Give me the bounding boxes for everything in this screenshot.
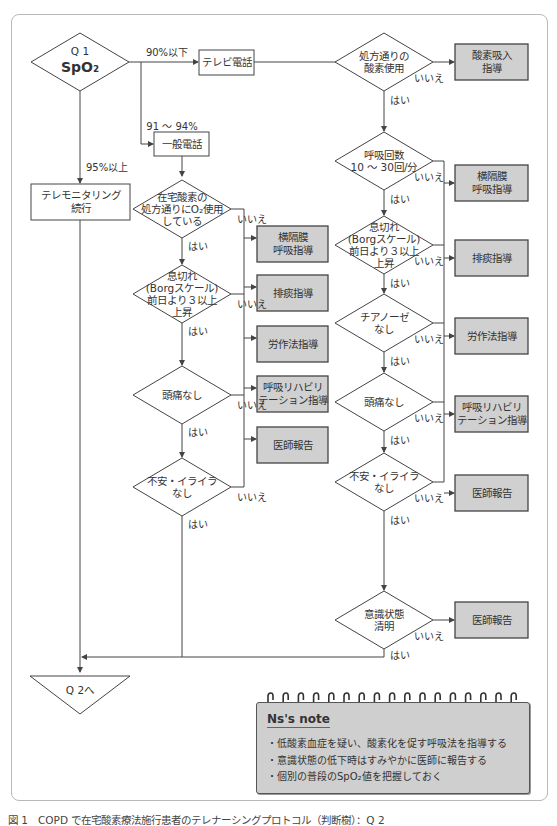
note-item: ・個別の普段のSpO₂値を把握しておく (267, 769, 507, 786)
right-decision-consciousness-text: 意識状態 (364, 608, 404, 620)
left-action-rehab-text: 呼吸リハビリ (263, 381, 323, 393)
no-label: いいえ (414, 256, 444, 267)
yes-label: はい (188, 241, 208, 252)
right-action-doctor2-text: 医師報告 (472, 614, 512, 626)
tv-call-box-text: テレビ電話 (202, 56, 253, 68)
spo2-label: SpO₂ (61, 59, 99, 75)
right-decision-resp-rate-text: 呼吸回数 (364, 149, 405, 161)
no-label: いいえ (414, 493, 444, 504)
left-action-exertion-text: 労作法指導 (268, 338, 319, 350)
yes-label: はい (390, 515, 410, 526)
general-call-box-text: 一般電話 (162, 138, 203, 150)
right-action-sputum-text: 排痰指導 (472, 252, 513, 264)
note-title: Ns's note (267, 712, 330, 728)
right-decision-cyanosis-text: なし (374, 323, 394, 335)
telemonitoring-box-text: 続行 (71, 202, 92, 214)
left-action-rehab-text: テーション指導 (258, 394, 329, 406)
no-label: いいえ (414, 172, 444, 183)
left-action-diaphragm-text: 呼吸指導 (273, 244, 314, 256)
no-label: いいえ (414, 334, 444, 345)
branch-low-label: 90%以下 (146, 47, 188, 58)
yes-label: はい (188, 519, 208, 530)
left-decision-anxiety-text: なし (172, 487, 192, 499)
right-action-rehab-text: 呼吸リハビリ (462, 401, 522, 413)
no-label: いいえ (237, 299, 267, 310)
yes-label: はい (390, 278, 410, 289)
yes-label: はい (390, 650, 410, 661)
note-list: ・低酸素血症を疑い、酸素化を促す呼吸法を指導する ・意識状態の低下時はすみやかに… (267, 736, 507, 786)
end-q2-label: Q 2へ (66, 684, 94, 696)
yes-label: はい (188, 427, 208, 438)
right-decision-resp-rate-text: 10 ～ 30回/分 (351, 161, 419, 173)
right-action-diaphragm-text: 呼吸指導 (472, 183, 513, 195)
yes-label: はい (390, 356, 410, 367)
left-decision-dyspnea-text: 前日より３以上 (147, 294, 217, 306)
right-action-exertion-text: 労作法指導 (467, 330, 518, 342)
right-action-diaphragm-text: 横隔膜 (477, 170, 508, 182)
right-action-oxygen-inhalation-text: 指導 (482, 62, 503, 74)
figure-caption: 図 1 COPD で在宅酸素療法施行患者のテレナーシングプロトコル（判断樹）：Q… (8, 812, 385, 826)
left-decision-home-oxygen-text: 在宅酸素の (157, 191, 207, 203)
right-decision-dyspnea-text: 息切れ (369, 221, 400, 233)
right-action-oxygen-inhalation-text: 酸素吸入 (472, 49, 513, 61)
left-decision-dyspnea-text: 上昇 (172, 306, 193, 318)
right-decision-cyanosis-text: チアノーゼ (360, 311, 410, 323)
right-decision-dyspnea-text: 前日より３以上 (349, 245, 419, 257)
left-decision-dyspnea-text: (Borgスケール) (146, 282, 219, 294)
right-action-doctor-text: 医師報告 (472, 487, 512, 499)
right-decision-anxiety-text: 不安・イライラ (349, 470, 419, 482)
right-decision-consciousness-text: 清明 (374, 620, 394, 632)
no-label: いいえ (414, 413, 444, 424)
branch-mid-label: 91 ～ 94% (146, 121, 197, 132)
telemonitoring-box-text: テレモニタリング (41, 189, 122, 201)
no-label: いいえ (237, 214, 267, 225)
left-action-diaphragm-text: 横隔膜 (278, 231, 309, 243)
left-action-sputum-text: 排痰指導 (273, 287, 314, 299)
q1-label: Q 1 (71, 45, 89, 57)
yes-label: はい (390, 95, 410, 106)
right-decision-headache-text: 頭痛なし (364, 396, 404, 408)
yes-label: はい (390, 194, 410, 205)
yes-label: はい (390, 435, 410, 446)
right-decision-oxygen-use-text: 処方通りの (359, 50, 409, 62)
left-action-doctor-text: 医師報告 (273, 439, 313, 451)
ns-note-box: Ns's note ・低酸素血症を疑い、酸素化を促す呼吸法を指導する ・意識状態… (256, 702, 530, 794)
branch-high-label: 95%以上 (86, 162, 128, 173)
left-decision-home-oxygen-text: している (162, 215, 202, 227)
yes-label: はい (188, 326, 208, 337)
note-item: ・意識状態の低下時はすみやかに医師に報告する (267, 753, 507, 770)
left-decision-dyspnea-text: 息切れ (167, 270, 198, 282)
right-decision-anxiety-text: なし (374, 482, 394, 494)
left-decision-anxiety-text: 不安・イライラ (147, 475, 217, 487)
left-decision-home-oxygen-text: 処方通りにO₂使用 (141, 203, 223, 215)
right-decision-dyspnea-text: (Borgスケール) (348, 233, 421, 245)
right-decision-dyspnea-text: 上昇 (374, 257, 395, 269)
connector (82, 649, 384, 657)
no-label: いいえ (414, 73, 444, 84)
right-decision-oxygen-use-text: 酸素使用 (364, 62, 404, 74)
right-action-rehab-text: テーション指導 (457, 414, 528, 426)
note-item: ・低酸素血症を疑い、酸素化を促す呼吸法を指導する (267, 736, 507, 753)
left-decision-headache-text: 頭痛なし (162, 389, 202, 401)
no-label: いいえ (414, 631, 444, 642)
no-label: いいえ (237, 492, 267, 503)
